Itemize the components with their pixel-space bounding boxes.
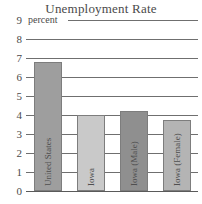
bar-series: United StatesIowaIowa (Male)Iowa (Female… (26, 20, 198, 191)
bar-label: Iowa (Male) (129, 141, 138, 186)
y-tick-label-4: 4 (17, 110, 23, 121)
y-tick-label-9: 9 (17, 15, 23, 26)
y-tick-label-2: 2 (17, 148, 23, 159)
y-tick-label-5: 5 (17, 91, 23, 102)
bar-united-states[interactable]: United States (34, 62, 62, 191)
y-tick-label-0: 0 (17, 186, 23, 197)
bar-iowa-male[interactable]: Iowa (Male) (120, 111, 148, 191)
bar-label: Iowa (Female) (172, 133, 181, 186)
bar-iowa[interactable]: Iowa (77, 115, 105, 191)
bar-label: United States (43, 138, 52, 186)
y-tick-label-8: 8 (17, 34, 23, 45)
y-tick-label-6: 6 (17, 72, 23, 83)
bar-label: Iowa (86, 168, 95, 186)
unemployment-rate-chart: Unemployment Rate percent 9876543210 Uni… (0, 0, 202, 204)
y-tick-label-3: 3 (17, 129, 23, 140)
plot-area: percent 9876543210 United StatesIowaIowa… (26, 20, 198, 191)
gridline-0 (26, 191, 198, 192)
y-tick-label-7: 7 (17, 53, 23, 64)
bar-iowa-female[interactable]: Iowa (Female) (163, 120, 191, 191)
y-tick-label-1: 1 (17, 167, 23, 178)
